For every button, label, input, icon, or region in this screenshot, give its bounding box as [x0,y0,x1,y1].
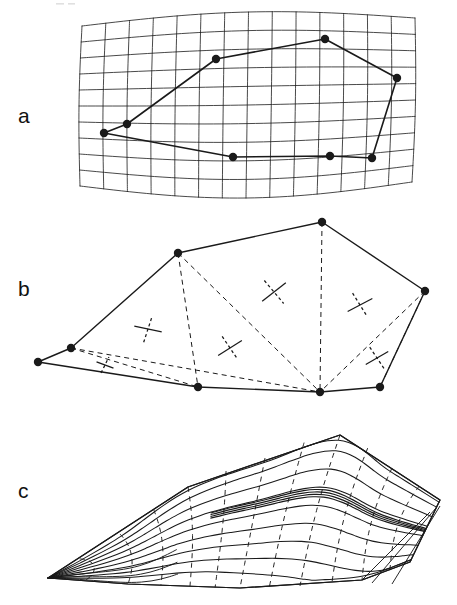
station-marker[interactable] [100,129,108,137]
panel-label-c: c [18,479,29,502]
station-marker[interactable] [321,35,329,43]
network-vertex[interactable] [376,383,384,391]
figure-container: a b c [0,0,457,605]
station-marker[interactable] [123,120,131,128]
panel-label-a: a [18,104,30,127]
network-vertex[interactable] [318,218,326,226]
network-vertex[interactable] [174,249,182,257]
panel-label-b: b [18,277,30,300]
network-vertex[interactable] [421,287,429,295]
station-marker[interactable] [393,74,401,82]
figure-svg: a b c [0,0,457,605]
network-vertex[interactable] [67,344,75,352]
network-vertex[interactable] [34,358,42,366]
network-vertex[interactable] [194,383,202,391]
station-marker[interactable] [368,154,376,162]
station-marker[interactable] [229,153,237,161]
network-vertex[interactable] [316,388,324,396]
station-marker[interactable] [326,152,334,160]
station-marker[interactable] [212,55,220,63]
